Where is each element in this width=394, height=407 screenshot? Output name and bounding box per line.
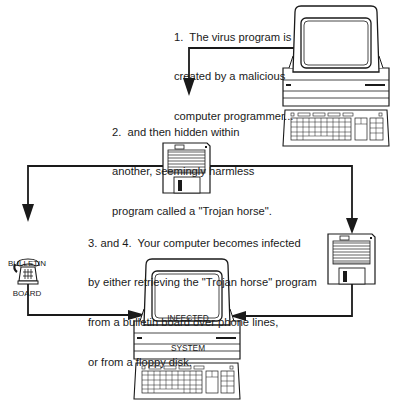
floppy-disk-icon (328, 234, 375, 284)
infected-label-line-1: INFECTED (158, 313, 218, 323)
bulletin-board-label: BULLETIN BOARD (2, 239, 52, 309)
step-3-4-line-2: by either retrieving the "Trojan horse" … (88, 276, 317, 289)
bulletin-label-line-2: BOARD (2, 289, 52, 299)
infected-label-line-2: SYSTEM (158, 343, 218, 353)
step-2-line-1: 2. and then hidden within (112, 126, 272, 139)
programmer-computer-icon (283, 6, 389, 146)
step-1-line-2: created by a malicious (174, 70, 293, 83)
bulletin-label-line-1: BULLETIN (2, 259, 52, 269)
step-2-line-2: another, seemingly harmless (112, 165, 272, 178)
infected-system-screen-label: INFECTED SYSTEM (158, 293, 218, 363)
step-3-4-line-1: 3. and 4. Your computer becomes infected (88, 237, 317, 250)
step-1-line-1: 1. The virus program is (174, 31, 293, 44)
